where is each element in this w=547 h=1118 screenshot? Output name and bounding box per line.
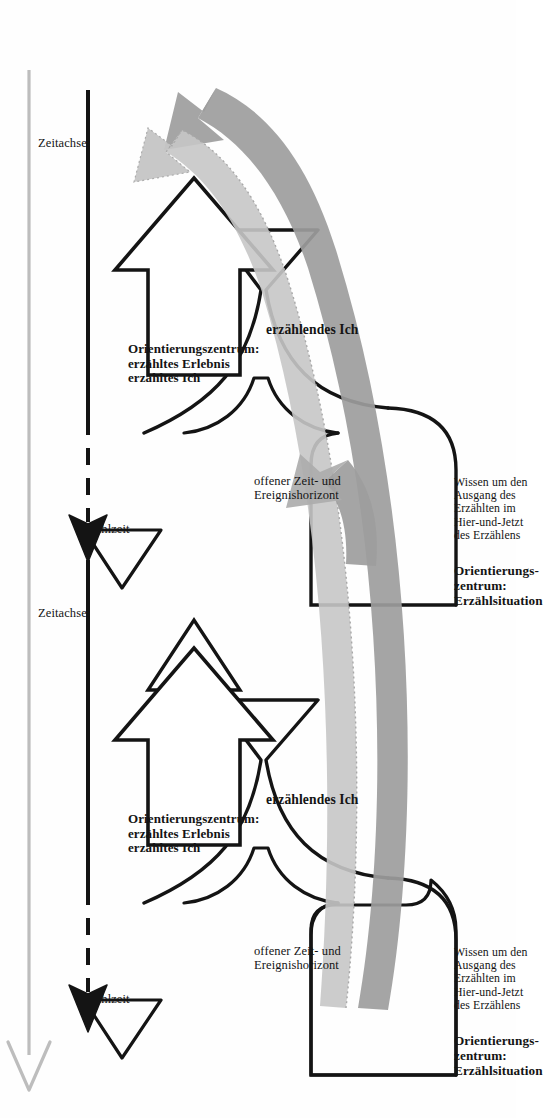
horizon-label-2: offener Zeit- und Ereignishorizont [254, 474, 404, 502]
narration-time-label-2: Erzählzeit [78, 522, 188, 536]
narrating-self-funnel-inner-1 [184, 848, 338, 903]
horizon-label-1: offener Zeit- und Ereignishorizont [254, 944, 404, 972]
knowledge-text-2: Wissen um den Ausgang des Erzählten im H… [454, 476, 547, 542]
narrating-self-label-1: erzählendes Ich [266, 792, 426, 807]
big-arrow-label-1: Orientierungszentrum: erzähltes Erlebnis… [128, 812, 316, 856]
narration-time-label-1: Erzählzeit [78, 992, 188, 1006]
knowledge-text-1: Wissen um den Ausgang des Erzählten im H… [454, 946, 547, 1012]
orientation-label-1: Orientierungs- zentrum: Erzählsituation [454, 1034, 547, 1078]
narrating-self-label-2: erzählendes Ich [266, 322, 426, 337]
time-axis-label-1: Zeitachse [38, 606, 148, 620]
orientation-label-2: Orientierungs- zentrum: Erzählsituation [454, 564, 547, 608]
big-arrow-label-2: Orientierungszentrum: erzähltes Erlebnis… [128, 342, 316, 386]
time-axis-label-2: Zeitachse [38, 136, 148, 150]
